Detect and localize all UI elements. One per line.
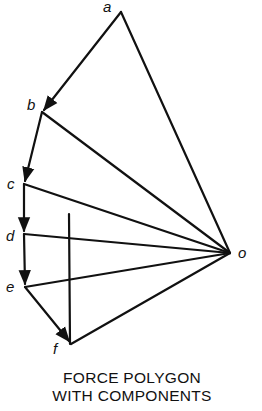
label-f: f [53, 340, 59, 357]
label-c: c [7, 175, 15, 192]
vector-e-f [25, 287, 69, 341]
caption-line-1: FORCE POLYGON [63, 369, 201, 386]
vector-d-e [24, 234, 25, 284]
label-o: o [238, 244, 246, 261]
label-a: a [103, 0, 111, 15]
component-line [69, 214, 70, 344]
label-d: d [6, 227, 15, 244]
vector-b-c [25, 112, 42, 181]
label-b: b [27, 96, 35, 113]
caption-line-2: WITH COMPONENTS [52, 387, 212, 404]
label-e: e [6, 278, 14, 295]
force-polygon-diagram: a b c d e f o FORCE POLYGON WITH COMPONE… [0, 0, 262, 411]
vector-a-b [44, 12, 121, 110]
ray-o-a [121, 12, 230, 253]
